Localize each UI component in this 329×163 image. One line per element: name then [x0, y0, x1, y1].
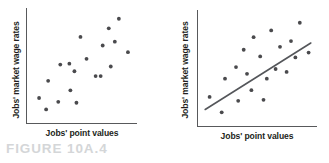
y-axis-label-right: Jobs' market wage rates: [180, 21, 190, 119]
data-point: [208, 95, 212, 99]
data-point: [252, 35, 256, 39]
data-point: [56, 100, 60, 104]
data-point: [46, 79, 50, 83]
scatter-plot-left-svg: Jobs' market wage rates Jobs' point valu…: [0, 0, 164, 145]
data-point: [269, 29, 273, 33]
data-point: [68, 88, 72, 92]
x-axis-label-left: Jobs' point values: [46, 128, 119, 138]
data-point: [94, 74, 98, 78]
y-axis-label-left: Jobs' market wage rates: [11, 21, 21, 119]
data-point: [250, 88, 254, 92]
data-point: [37, 96, 41, 100]
scatter-chart-right: Jobs' market wage rates Jobs' point valu…: [165, 0, 329, 145]
data-point: [262, 98, 266, 102]
data-point: [258, 55, 262, 59]
figure-caption: FIGURE 10A.4: [6, 141, 108, 156]
data-point: [307, 51, 311, 55]
data-point: [117, 17, 121, 21]
data-point: [99, 74, 103, 78]
data-point: [223, 77, 227, 81]
data-point: [107, 26, 111, 30]
figure-container: Jobs' market wage rates Jobs' point valu…: [0, 0, 329, 163]
axis-lines-left: [27, 8, 138, 124]
data-point: [298, 21, 302, 25]
data-point: [285, 70, 289, 74]
data-point: [113, 40, 117, 44]
data-point: [85, 57, 89, 61]
x-axis-label-right: Jobs' point values: [221, 131, 294, 141]
data-point: [265, 77, 269, 81]
scatter-plot-right-svg: Jobs' market wage rates Jobs' point valu…: [165, 0, 329, 145]
regression-trend-line: [205, 43, 311, 109]
data-point: [234, 65, 238, 69]
data-point: [220, 110, 224, 114]
data-point: [73, 69, 77, 73]
data-point: [75, 101, 79, 105]
data-point: [109, 65, 113, 69]
axis-lines-right: [198, 10, 318, 127]
data-point: [278, 45, 282, 49]
data-point: [289, 39, 293, 43]
data-point: [79, 35, 83, 39]
data-point: [294, 56, 298, 60]
scatter-chart-left: Jobs' market wage rates Jobs' point valu…: [0, 0, 164, 145]
data-point: [236, 99, 240, 103]
data-points-right: [208, 21, 311, 114]
data-point: [67, 62, 71, 66]
data-point: [245, 72, 249, 76]
data-point: [44, 108, 48, 112]
data-points-left: [37, 17, 130, 111]
data-point: [274, 67, 278, 71]
data-point: [58, 63, 62, 67]
data-point: [242, 48, 246, 52]
data-point: [101, 44, 105, 48]
data-point: [126, 50, 130, 54]
